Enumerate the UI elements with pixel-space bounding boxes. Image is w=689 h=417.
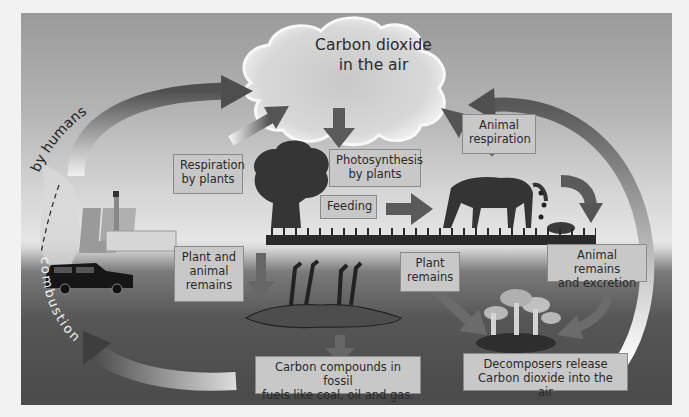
label-feeding: Feeding bbox=[320, 195, 377, 219]
label-animal-respiration: Animal respiration bbox=[462, 114, 536, 154]
horse-graphic bbox=[443, 177, 547, 228]
tree-graphic bbox=[254, 141, 329, 228]
label-plant-and-animal-remains: Plant and animal remains bbox=[174, 246, 244, 302]
car-graphic bbox=[46, 263, 133, 294]
cloud-label: Carbon dioxide in the air bbox=[291, 35, 456, 75]
label-fossil-fuels: Carbon compounds in fossil fuels like co… bbox=[255, 356, 421, 394]
power-plant-graphic bbox=[40, 163, 176, 273]
label-decomposers: Decomposers release Carbon dioxide into … bbox=[463, 353, 628, 391]
carbon-cycle-diagram: by humans combustion Carbon dioxide in t… bbox=[21, 13, 672, 405]
label-photosynthesis: Photosynthesis by plants bbox=[329, 149, 421, 187]
mushrooms-graphic bbox=[476, 289, 561, 353]
label-respiration-by-plants: Respiration by plants bbox=[173, 154, 243, 194]
label-animal-remains-excretion: Animal remains and excretion bbox=[547, 244, 647, 282]
label-plant-remains: Plant remains bbox=[400, 252, 460, 292]
dead-horse-graphic bbox=[246, 261, 401, 328]
